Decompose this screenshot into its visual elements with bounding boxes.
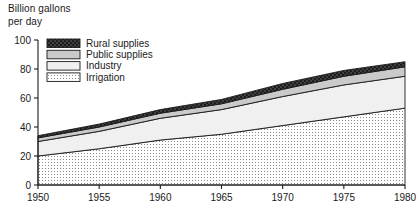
y-axis: 020406080100 [14, 35, 38, 191]
legend-swatch-rural-supplies [47, 39, 80, 48]
x-tick-label: 1980 [394, 192, 417, 203]
y-tick-label: 80 [20, 64, 32, 75]
x-tick-label: 1960 [149, 192, 172, 203]
y-tick-label: 60 [20, 93, 32, 104]
x-axis: 1950195519601965197019751980 [27, 185, 417, 203]
y-tick-label: 0 [25, 180, 31, 191]
x-tick-label: 1955 [88, 192, 111, 203]
legend-swatch-industry [47, 62, 80, 71]
chart-canvas: 020406080100 195019551960196519701975198… [0, 0, 420, 211]
legend-swatch-public-supplies [47, 50, 80, 59]
x-tick-label: 1965 [210, 192, 233, 203]
y-tick-label: 20 [20, 151, 32, 162]
legend-label-irrigation: Irrigation [86, 72, 125, 83]
y-tick-label: 100 [14, 35, 31, 46]
legend-label-public-supplies: Public supplies [86, 49, 153, 60]
x-tick-label: 1975 [333, 192, 356, 203]
water-use-area-chart: Billion gallons per day [0, 0, 420, 211]
legend-swatch-irrigation [47, 73, 80, 82]
legend-label-industry: Industry [86, 60, 122, 71]
chart-legend: Rural suppliesPublic suppliesIndustryIrr… [47, 38, 153, 83]
legend-label-rural-supplies: Rural supplies [86, 38, 149, 49]
y-tick-label: 40 [20, 122, 32, 133]
x-tick-label: 1970 [272, 192, 295, 203]
x-tick-label: 1950 [27, 192, 50, 203]
